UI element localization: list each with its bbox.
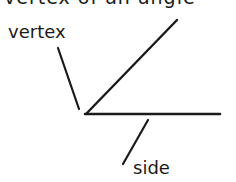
vertex-label: vertex xyxy=(8,23,66,41)
side-label: side xyxy=(133,159,170,177)
vertex-pointer-line xyxy=(58,48,79,109)
diagonal-ray xyxy=(86,20,177,114)
